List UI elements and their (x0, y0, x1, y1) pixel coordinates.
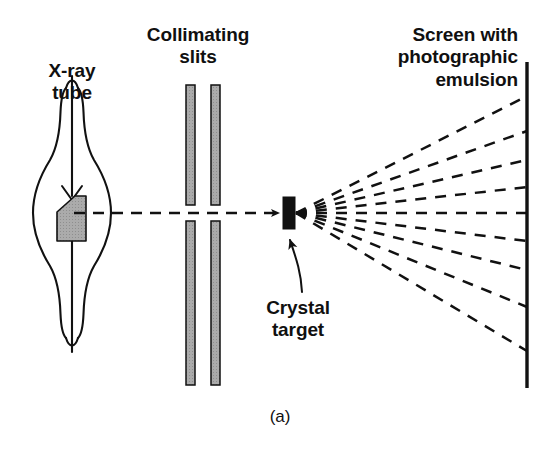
label-screen-emulsion: Screen with photographic emulsion (352, 24, 518, 91)
diffracted-ray-4 (296, 187, 527, 213)
slit-bar-upper-left (186, 85, 195, 205)
diffracted-ray-3 (296, 160, 527, 213)
diffracted-ray-2 (296, 131, 527, 213)
collimating-slits-group (186, 85, 220, 385)
slit-bar-lower-right (211, 221, 220, 385)
crystal-target-block (283, 197, 295, 229)
xray-diffraction-figure: X-ray tube Collimating slits Screen with… (0, 0, 558, 464)
label-xray-tube: X-ray tube (12, 60, 132, 105)
diffracted-ray-6 (296, 213, 527, 241)
diffracted-ray-1 (296, 96, 527, 213)
slit-bar-lower-left (186, 221, 195, 385)
label-panel-a: (a) (240, 407, 320, 427)
diffracted-ray-7 (296, 213, 527, 270)
anode-target-block (57, 196, 86, 241)
label-collimating-slits: Collimating slits (136, 24, 260, 69)
label-crystal-target: Crystal target (246, 297, 350, 342)
slit-bar-upper-right (211, 85, 220, 205)
diffracted-ray-8 (296, 213, 527, 307)
crystal-pointer-arrow (290, 240, 302, 292)
